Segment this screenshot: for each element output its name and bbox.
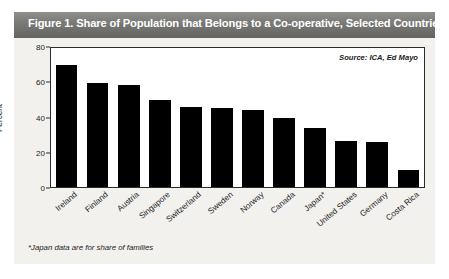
- x-axis-tick-label: Norway: [238, 190, 265, 215]
- y-axis-tick-label: 60: [36, 78, 45, 87]
- bar: [335, 141, 357, 187]
- bar: [398, 170, 420, 187]
- plot-area: Source: ICA, Ed Mayo: [50, 47, 425, 188]
- bar: [242, 110, 264, 187]
- y-axis: Percent 020406080: [14, 47, 50, 188]
- x-axis-tick-label: Japan*: [302, 190, 327, 213]
- x-axis-tick-label: Austria: [116, 190, 141, 213]
- bar: [87, 83, 109, 187]
- x-axis-tick-label: Ireland: [54, 190, 79, 213]
- x-axis-labels: IrelandFinlandAustriaSingaporeSwitzerlan…: [50, 188, 425, 248]
- bar: [149, 100, 171, 187]
- x-axis-tick-label: Canada: [269, 190, 297, 215]
- y-axis-tick-label: 20: [36, 148, 45, 157]
- x-axis-tick-label: Costa Rica: [384, 190, 420, 223]
- bar: [304, 128, 326, 187]
- page-title: Figure 1. Share of Population that Belon…: [28, 17, 444, 29]
- bars-container: [51, 48, 424, 187]
- figure-panel: Figure 1. Share of Population that Belon…: [14, 12, 435, 264]
- bar: [273, 118, 295, 188]
- bar: [118, 85, 140, 188]
- bar: [366, 142, 388, 187]
- footnote: *Japan data are for share of families: [28, 243, 153, 252]
- bar: [56, 65, 78, 187]
- y-axis-tick-label: 80: [36, 43, 45, 52]
- y-axis-tick-label: 0: [41, 184, 45, 193]
- bar: [211, 108, 233, 187]
- y-axis-title: Percent: [0, 88, 4, 148]
- y-axis-tick-label: 40: [36, 113, 45, 122]
- x-axis-tick-label: Sweden: [206, 190, 234, 216]
- x-axis-tick-label: Finland: [84, 190, 110, 214]
- bar: [180, 107, 202, 187]
